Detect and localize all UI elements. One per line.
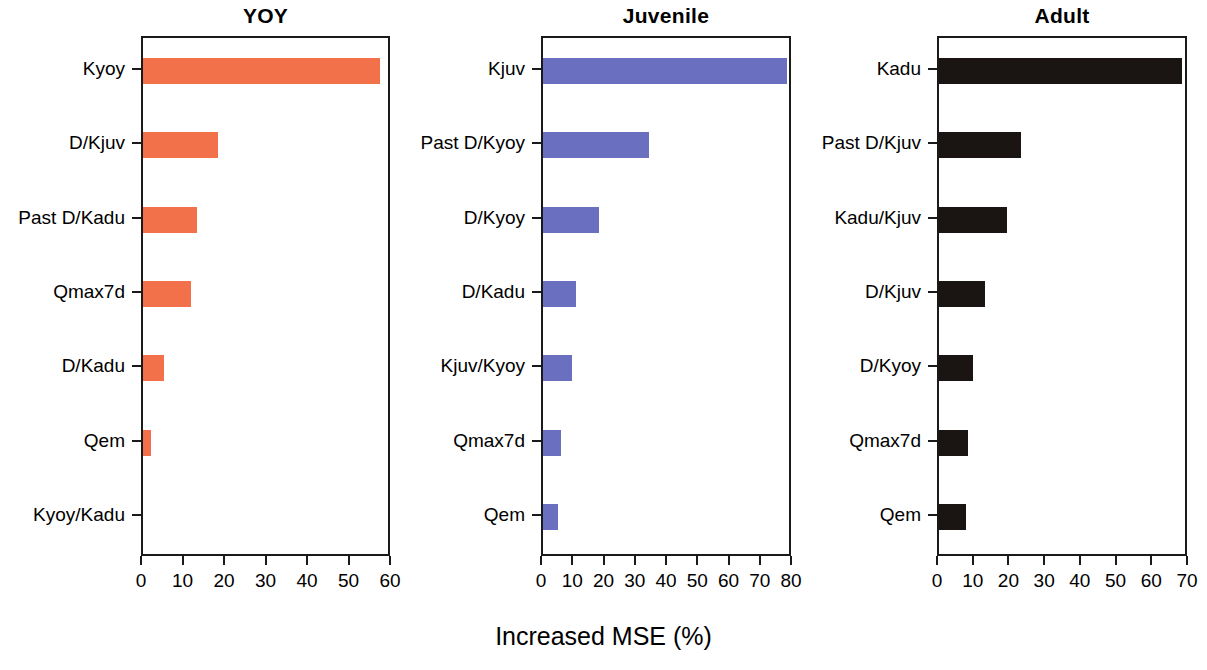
x-axis-tick-label: 60 (1131, 570, 1171, 592)
y-axis-tick-label: D/Kadu (400, 282, 525, 302)
y-axis-tick-label: D/Kadu (0, 356, 125, 376)
bar (543, 355, 572, 381)
y-axis-tick (132, 217, 141, 219)
y-axis-tick-label: Qmax7d (797, 431, 921, 451)
bars-layer (143, 38, 388, 554)
bar (543, 132, 649, 158)
x-axis-tick (265, 556, 267, 565)
y-axis-tick-label: Qmax7d (400, 431, 525, 451)
y-axis-tick (132, 142, 141, 144)
x-axis-tick (389, 556, 391, 565)
y-axis-tick (532, 514, 541, 516)
y-axis-tick-label: Kyoy (0, 59, 125, 79)
y-axis-tick-label: Kjuv (400, 59, 525, 79)
bar (143, 281, 191, 307)
y-axis-tick (132, 291, 141, 293)
x-axis-tick (1150, 556, 1152, 565)
y-axis-tick-label: Qem (797, 505, 921, 525)
bars-layer (939, 38, 1185, 554)
y-axis-tick (532, 365, 541, 367)
x-axis-tick-label: 10 (953, 570, 993, 592)
y-axis-tick (928, 514, 937, 516)
y-axis-tick-label: Qmax7d (0, 282, 125, 302)
x-axis-tick-label: 0 (917, 570, 957, 592)
x-axis-tick (728, 556, 730, 565)
y-axis-tick-label: Past D/Kjuv (797, 133, 921, 153)
x-axis-tick (696, 556, 698, 565)
bar (939, 281, 985, 307)
panel-adult: AdultKaduPast D/KjuvKadu/KjuvD/KjuvD/Kyo… (797, 0, 1207, 600)
x-axis-tick (306, 556, 308, 565)
bar (939, 58, 1182, 84)
y-axis-tick-label: D/Kyoy (797, 356, 921, 376)
y-axis-tick (532, 142, 541, 144)
y-axis-tick (928, 68, 937, 70)
plot-area (937, 36, 1187, 556)
bar (143, 207, 197, 233)
x-axis-tick (665, 556, 667, 565)
x-axis-tick (540, 556, 542, 565)
x-axis-tick-label: 30 (1024, 570, 1064, 592)
bar (143, 132, 218, 158)
x-axis-tick-label: 50 (329, 570, 369, 592)
bar (543, 281, 576, 307)
x-axis-tick (1043, 556, 1045, 565)
x-axis-tick-label: 10 (163, 570, 203, 592)
x-axis-tick (1115, 556, 1117, 565)
y-axis-tick (132, 68, 141, 70)
bars-layer (543, 38, 789, 554)
x-axis-tick (603, 556, 605, 565)
bar (939, 430, 968, 456)
bar (939, 504, 966, 530)
x-axis-tick (790, 556, 792, 565)
x-axis-tick-label: 20 (204, 570, 244, 592)
x-axis-tick (223, 556, 225, 565)
y-axis-tick (928, 365, 937, 367)
y-axis-tick-label: Qem (0, 431, 125, 451)
bar (543, 207, 599, 233)
panel-title: Adult (937, 4, 1187, 28)
x-axis-tick-label: 70 (1167, 570, 1207, 592)
y-axis-tick (132, 365, 141, 367)
y-axis-tick-label: Kyoy/Kadu (0, 505, 125, 525)
y-axis-tick-label: Qem (400, 505, 525, 525)
x-axis-tick-label: 40 (1060, 570, 1100, 592)
x-axis-tick (972, 556, 974, 565)
x-axis-tick (1186, 556, 1188, 565)
bar (143, 355, 164, 381)
bar (143, 58, 380, 84)
x-axis-tick (571, 556, 573, 565)
y-axis-tick-label: Kadu (797, 59, 921, 79)
panel-title: YOY (141, 4, 390, 28)
x-axis-tick (182, 556, 184, 565)
x-axis-tick-label: 50 (1096, 570, 1136, 592)
x-axis-tick (936, 556, 938, 565)
y-axis-tick (928, 142, 937, 144)
y-axis-tick (532, 68, 541, 70)
panel-yoy: YOYKyoyD/KjuvPast D/KaduQmax7dD/KaduQemK… (0, 0, 400, 600)
y-axis-tick (132, 440, 141, 442)
y-axis-tick (532, 291, 541, 293)
x-axis-tick-label: 20 (988, 570, 1028, 592)
bar (543, 58, 787, 84)
y-axis-tick-label: Kadu/Kjuv (797, 208, 921, 228)
figure-canvas: YOYKyoyD/KjuvPast D/KaduQmax7dD/KaduQemK… (0, 0, 1207, 670)
bar (939, 132, 1021, 158)
x-axis-tick-label: 0 (121, 570, 161, 592)
y-axis-tick (532, 440, 541, 442)
y-axis-tick-label: Past D/Kadu (0, 208, 125, 228)
x-axis-label: Increased MSE (%) (0, 622, 1207, 651)
bar (543, 504, 558, 530)
plot-area (141, 36, 390, 556)
x-axis-tick-label: 30 (246, 570, 286, 592)
x-axis-tick-label: 40 (287, 570, 327, 592)
y-axis-tick (928, 217, 937, 219)
bar (543, 430, 561, 456)
x-axis-tick (634, 556, 636, 565)
bar (939, 207, 1007, 233)
y-axis-tick-label: Kjuv/Kyoy (400, 356, 525, 376)
panel-juvenile: JuvenileKjuvPast D/KyoyD/KyoyD/KaduKjuv/… (400, 0, 800, 600)
plot-area (541, 36, 791, 556)
y-axis-tick (928, 291, 937, 293)
y-axis-tick-label: D/Kjuv (797, 282, 921, 302)
